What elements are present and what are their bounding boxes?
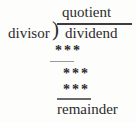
partial-product-2: *** xyxy=(63,82,90,98)
dividend-label: dividend xyxy=(65,25,118,41)
subtraction-rule-1 xyxy=(50,61,74,62)
division-bracket-icon: ) xyxy=(52,22,59,37)
partial-product-1: *** xyxy=(55,43,82,59)
remainder-label: remainder xyxy=(57,101,118,117)
divisor-label: divisor xyxy=(8,25,50,41)
long-division-diagram: quotient divisor ) dividend *** *** *** … xyxy=(0,0,136,123)
partial-remainder-digits: *** xyxy=(63,66,90,82)
quotient-label: quotient xyxy=(62,4,111,20)
subtraction-rule-2 xyxy=(57,98,91,100)
